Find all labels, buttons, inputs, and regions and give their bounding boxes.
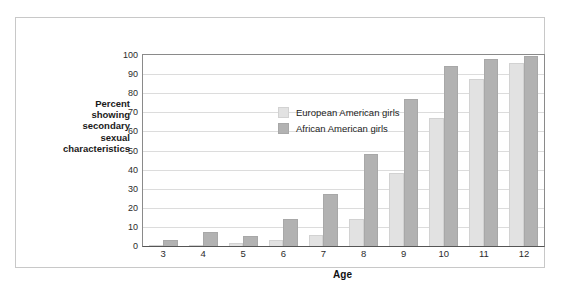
x-tick-label: 10 — [438, 248, 449, 259]
bar-group — [509, 55, 538, 246]
legend-label-european-american: European American girls — [296, 107, 400, 118]
x-tick-label: 12 — [519, 248, 530, 259]
bar-african-american — [524, 56, 539, 246]
bar-group — [189, 55, 218, 246]
x-tick-label: 4 — [200, 248, 205, 259]
bar-european-american — [189, 245, 204, 246]
bar-group — [389, 55, 418, 246]
y-axis-label-line: showing — [38, 109, 130, 120]
y-axis-label-line: secondary — [38, 120, 130, 131]
bar-african-american — [444, 66, 459, 246]
bar-group — [469, 55, 498, 246]
bar-european-american — [229, 243, 244, 246]
bar-european-american — [309, 235, 324, 246]
bar-african-american — [283, 219, 298, 246]
x-tick-label: 8 — [361, 248, 366, 259]
bar-european-american — [429, 118, 444, 246]
plot-area: 0102030405060708090100 3456789101112 Eur… — [142, 54, 545, 247]
y-tick-label: 20 — [128, 203, 138, 213]
y-tick-label: 40 — [128, 165, 138, 175]
y-tick-label: 60 — [128, 126, 138, 136]
y-axis-label-line: Percent — [38, 98, 130, 109]
bar-group — [429, 55, 458, 246]
x-axis-label: Age — [142, 269, 543, 280]
legend-item-european-american: European American girls — [278, 105, 400, 119]
bar-african-american — [484, 59, 499, 246]
bar-african-american — [364, 154, 379, 246]
bar-european-american — [389, 173, 404, 246]
legend: European American girls African American… — [278, 105, 400, 137]
bar-european-american — [349, 219, 364, 246]
bar-african-american — [323, 194, 338, 246]
bar-european-american — [469, 79, 484, 246]
x-tick-label: 11 — [479, 248, 489, 259]
y-tick-label: 70 — [128, 107, 138, 117]
bar-african-american — [243, 236, 258, 247]
legend-item-african-american: African American girls — [278, 121, 400, 135]
legend-label-african-american: African American girls — [296, 123, 388, 134]
bar-african-american — [404, 99, 419, 246]
legend-swatch-african-american — [278, 123, 289, 134]
bar-african-american — [203, 232, 218, 246]
bar-african-american — [163, 240, 178, 246]
bar-european-american — [509, 63, 524, 246]
y-tick-label: 90 — [128, 69, 138, 79]
y-tick-label: 10 — [128, 222, 138, 232]
bar-group — [229, 55, 258, 246]
x-tick-label: 6 — [281, 248, 286, 259]
y-tick-label: 100 — [123, 50, 138, 60]
y-tick-label: 0 — [133, 241, 138, 251]
x-tick-label: 3 — [160, 248, 165, 259]
x-tick-label: 5 — [241, 248, 246, 259]
x-tick-label: 9 — [401, 248, 406, 259]
y-tick-label: 50 — [128, 146, 138, 156]
legend-swatch-european-american — [278, 107, 289, 118]
x-tick-label: 7 — [321, 248, 326, 259]
bar-series-container — [143, 55, 544, 246]
bar-group — [309, 55, 338, 246]
bar-group — [349, 55, 378, 246]
y-axis-label-line: sexual — [38, 132, 130, 143]
y-axis-label-line: characteristics — [38, 143, 130, 154]
bar-european-american — [269, 240, 284, 246]
chart-frame: Percentshowingsecondarysexualcharacteris… — [15, 17, 545, 268]
chart-screenshot: Percentshowingsecondarysexualcharacteris… — [0, 0, 572, 290]
y-tick-label: 30 — [128, 184, 138, 194]
bar-group — [149, 55, 178, 246]
bar-european-american — [149, 245, 164, 246]
bar-group — [269, 55, 298, 246]
y-axis-label: Percentshowingsecondarysexualcharacteris… — [38, 98, 130, 154]
y-tick-label: 80 — [128, 88, 138, 98]
